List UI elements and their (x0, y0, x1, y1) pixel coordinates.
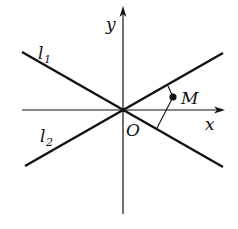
x-axis-label: x (205, 114, 215, 134)
coordinate-diagram: y x O M l 1 l 2 (0, 0, 238, 229)
point-m-label: M (180, 88, 199, 108)
perpendicular-to-l1 (157, 97, 173, 128)
line-l2-label: l 2 (40, 126, 53, 149)
line-l1-label: l 1 (38, 43, 51, 66)
line-l1-subscript: 1 (44, 53, 51, 66)
line-l1-letter: l (38, 43, 43, 63)
y-axis-label: y (105, 14, 116, 34)
line-l2-subscript: 2 (45, 136, 53, 149)
origin-point (121, 108, 125, 112)
origin-label: O (126, 120, 140, 140)
line-l2-letter: l (40, 126, 45, 146)
diagram-canvas: y x O M l 1 l 2 (0, 0, 238, 229)
point-m (169, 93, 176, 100)
